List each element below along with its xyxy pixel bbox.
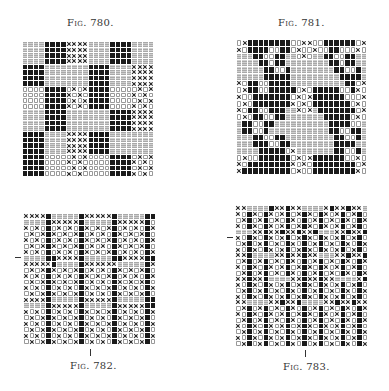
- weave-cell: [307, 47, 311, 53]
- weave-cell: [151, 256, 156, 261]
- weave-cell: [286, 206, 291, 211]
- weave-cell: [334, 108, 338, 114]
- weave-cell: [335, 230, 340, 235]
- weave-cell: [302, 300, 307, 305]
- weave-cell: [329, 162, 333, 168]
- weave-cell: [242, 101, 246, 107]
- weave-cell: [121, 98, 125, 103]
- weave-cell: [341, 282, 346, 287]
- weave-cell: [35, 303, 40, 308]
- weave-cell: [61, 138, 65, 143]
- weave-cell: [275, 94, 279, 100]
- weave-cell: [96, 214, 101, 219]
- weave-cell: [50, 160, 54, 165]
- weave-cell: [45, 93, 49, 98]
- weave-cell: [143, 48, 147, 53]
- weave-cell: [351, 121, 355, 127]
- weave-cell: [308, 324, 313, 329]
- weave-cell: [236, 206, 241, 211]
- weave-cell: [78, 115, 82, 120]
- weave-cell: [253, 101, 257, 107]
- weave-cell: [61, 149, 65, 154]
- weave-cell: [362, 128, 366, 134]
- weave-cell: [340, 114, 344, 120]
- weave-cell: [90, 232, 95, 237]
- weave-cell: [264, 148, 268, 154]
- weave-cell: [28, 87, 32, 92]
- weave-cell: [329, 121, 333, 127]
- weave-cell: [258, 265, 263, 270]
- weave-cell: [357, 235, 362, 240]
- weave-cell: [345, 74, 349, 80]
- weave-cell: [138, 115, 142, 120]
- weave-cell: [242, 94, 246, 100]
- weave-cell: [247, 277, 252, 282]
- weave-cell: [275, 74, 279, 80]
- weave-cell: [140, 214, 145, 219]
- weave-cell: [319, 224, 324, 229]
- weave-cell: [99, 166, 103, 171]
- weave-cell: [63, 297, 68, 302]
- weave-cell: [356, 168, 360, 174]
- weave-cell: [319, 277, 324, 282]
- weave-cell: [291, 329, 296, 334]
- weave-cell: [101, 214, 106, 219]
- weave-cell: [138, 87, 142, 92]
- weave-cell: [45, 98, 49, 103]
- weave-cell: [352, 277, 357, 282]
- weave-cell: [110, 70, 114, 75]
- weave-cell: [99, 76, 103, 81]
- weave-cell: [253, 81, 257, 87]
- weave-cell: [94, 160, 98, 165]
- weave-cell: [30, 327, 35, 332]
- weave-cell: [253, 47, 257, 53]
- weave-cell: [258, 324, 263, 329]
- weave-cell: [345, 162, 349, 168]
- weave-cell: [275, 101, 279, 107]
- weave-cell: [345, 141, 349, 147]
- weave-cell: [330, 253, 335, 258]
- weave-cell: [259, 94, 263, 100]
- weave-cell: [118, 291, 123, 296]
- weave-cell: [145, 321, 150, 326]
- weave-cell: [138, 143, 142, 148]
- weave-cell: [105, 70, 109, 75]
- weave-cell: [149, 155, 153, 160]
- weave-cell: [132, 138, 136, 143]
- weave-cell: [356, 54, 360, 60]
- weave-cell: [90, 238, 95, 243]
- weave-cell: [74, 226, 79, 231]
- weave-cell: [302, 329, 307, 334]
- weave-cell: [30, 262, 35, 267]
- weave-cell: [352, 224, 357, 229]
- weave-cell: [341, 253, 346, 258]
- weave-cell: [264, 230, 269, 235]
- weave-cell: [41, 280, 46, 285]
- weave-cell: [236, 241, 241, 246]
- weave-cell: [79, 285, 84, 290]
- weave-cell: [341, 247, 346, 252]
- weave-cell: [275, 265, 280, 270]
- weave-cell: [291, 288, 296, 293]
- weave-cell: [335, 318, 340, 323]
- weave-cell: [297, 40, 301, 46]
- weave-cell: [46, 291, 51, 296]
- weave-cell: [68, 321, 73, 326]
- weave-cell: [112, 220, 117, 225]
- weave-cell: [23, 53, 27, 58]
- weave-cell: [149, 171, 153, 176]
- weave-cell: [324, 230, 329, 235]
- weave-cell: [345, 114, 349, 120]
- weave-cell: [23, 65, 27, 70]
- weave-cell: [23, 98, 27, 103]
- weave-cell: [41, 274, 46, 279]
- weave-cell: [39, 42, 43, 47]
- weave-cell: [351, 108, 355, 114]
- weave-cell: [129, 297, 134, 302]
- weave-cell: [237, 54, 241, 60]
- weave-cell: [45, 138, 49, 143]
- weave-cell: [140, 303, 145, 308]
- weave-cell: [242, 241, 247, 246]
- weave-cell: [134, 214, 139, 219]
- weave-cell: [335, 247, 340, 252]
